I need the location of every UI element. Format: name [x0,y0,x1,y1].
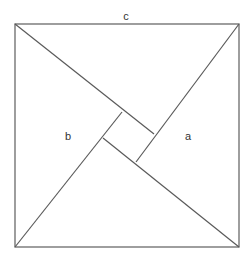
label-b: b [65,130,71,142]
label-c: c [123,10,129,22]
pythagorean-diagram: c b a [0,0,252,261]
triangle-edge-bottom-right [103,138,239,247]
triangle-edge-top-left [15,24,154,134]
outer-square [15,24,239,247]
label-a: a [185,130,192,142]
